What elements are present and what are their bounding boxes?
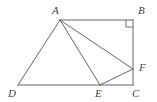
vertex-label-F: F	[139, 62, 146, 73]
right-angle-group	[126, 20, 133, 27]
vertex-label-B: B	[138, 5, 145, 16]
geometry-figure: A B C D E F	[0, 0, 157, 102]
segment-EF	[100, 69, 133, 85]
vertex-label-A: A	[52, 5, 59, 16]
segment-AF	[60, 20, 133, 69]
vertex-label-E: E	[95, 88, 102, 99]
segment-AE	[60, 20, 100, 85]
edge-group	[18, 20, 133, 85]
vertex-label-C: C	[132, 88, 139, 99]
vertex-label-D: D	[8, 88, 16, 99]
segment-AD	[18, 20, 60, 85]
right-angle-marker-B	[126, 20, 133, 27]
